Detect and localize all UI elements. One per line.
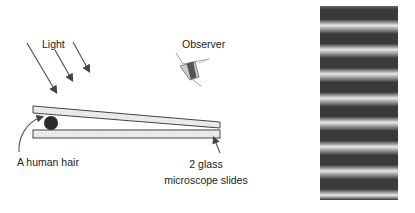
- light-ray-arrow: [55, 50, 72, 80]
- human-hair-cross-section: [44, 116, 58, 130]
- slides-label-line1: 2 glass: [163, 158, 249, 170]
- observer-label: Observer: [182, 38, 225, 50]
- top-glass-slide: [33, 106, 220, 128]
- interference-fringe-photo: [320, 6, 398, 200]
- slides-label-line2: microscope slides: [160, 174, 252, 186]
- bottom-glass-slide: [33, 130, 220, 138]
- fringe-bands: [320, 6, 398, 200]
- light-ray-arrow: [73, 42, 89, 71]
- hair-label: A human hair: [17, 156, 79, 168]
- observer-eye-icon: [176, 53, 209, 86]
- slides-pointer-arrow: [214, 138, 220, 153]
- light-label: Light: [42, 38, 65, 50]
- light-ray-arrow: [27, 43, 56, 92]
